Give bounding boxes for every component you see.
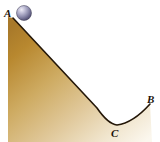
physics-figure: A B C	[0, 0, 160, 142]
scene-svg	[0, 0, 160, 142]
ball-icon	[17, 6, 32, 21]
point-label-b: B	[147, 94, 154, 105]
point-label-a: A	[4, 8, 11, 19]
point-label-c: C	[111, 128, 118, 139]
